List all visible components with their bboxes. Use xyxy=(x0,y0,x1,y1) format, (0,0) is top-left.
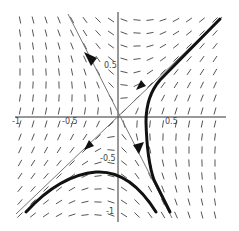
field-arrow xyxy=(162,173,164,179)
field-arrow xyxy=(213,56,217,61)
field-arrow xyxy=(58,134,61,140)
field-arrow xyxy=(32,147,35,153)
field-arrow xyxy=(214,82,217,88)
y-tick-label: 0.5 xyxy=(104,61,117,70)
field-arrow xyxy=(188,212,190,218)
field-arrow xyxy=(121,19,127,21)
field-arrow xyxy=(31,213,36,217)
field-arrow xyxy=(20,30,21,36)
field-arrow xyxy=(108,137,114,138)
field-arrow xyxy=(69,214,75,216)
field-arrow xyxy=(147,70,152,74)
field-arrow xyxy=(162,95,165,101)
field-arrow xyxy=(96,31,100,36)
field-arrow xyxy=(45,43,46,49)
field-arrow xyxy=(20,95,21,101)
field-arrow xyxy=(175,199,177,205)
field-arrow xyxy=(135,213,140,217)
field-arrow xyxy=(45,17,47,23)
field-arrow xyxy=(201,95,203,101)
field-arrow xyxy=(69,201,75,204)
field-arrow xyxy=(161,82,165,87)
field-arrow xyxy=(18,173,22,178)
field-arrow xyxy=(136,134,137,140)
field-arrow xyxy=(121,45,127,47)
field-arrow xyxy=(162,186,164,192)
field-arrow xyxy=(189,173,190,179)
field-arrow xyxy=(84,121,86,127)
field-arrow xyxy=(160,44,166,47)
field-arrow xyxy=(46,56,47,62)
field-arrow xyxy=(136,108,139,114)
field-arrow xyxy=(111,108,112,114)
field-arrow xyxy=(44,200,49,204)
field-arrow xyxy=(134,71,140,73)
field-arrow xyxy=(121,58,127,60)
field-arrow xyxy=(148,186,151,192)
field-arrow xyxy=(173,31,178,34)
field-arrow xyxy=(174,70,178,75)
field-arrow xyxy=(83,134,87,139)
field-arrow xyxy=(57,187,62,191)
field-arrow xyxy=(82,161,87,165)
field-arrow xyxy=(188,108,190,114)
field-arrow xyxy=(96,44,100,49)
field-arrow xyxy=(213,69,216,75)
x-tick-label: -0.5 xyxy=(62,117,78,126)
field-arrow xyxy=(121,187,126,191)
field-arrow xyxy=(97,95,98,101)
field-arrow xyxy=(58,43,60,49)
phase-portrait: -1 -0.5 0.5 0.5 -0.5 -1 xyxy=(0,0,239,231)
field-arrow xyxy=(201,108,203,114)
field-arrow xyxy=(135,200,139,205)
field-arrow xyxy=(134,20,140,21)
field-arrow xyxy=(59,69,60,75)
field-arrow xyxy=(188,121,189,127)
field-arrow xyxy=(108,44,113,48)
field-arrow xyxy=(175,108,177,114)
field-arrow xyxy=(121,200,126,204)
field-arrow xyxy=(58,56,59,62)
field-arrow xyxy=(18,213,23,217)
field-arrow xyxy=(147,20,153,21)
field-arrow xyxy=(108,31,113,35)
field-arrow xyxy=(202,134,203,140)
field-arrow xyxy=(82,188,88,190)
field-arrow xyxy=(69,187,75,190)
field-arrow xyxy=(109,83,113,88)
field-arrow xyxy=(44,174,48,179)
field-arrow xyxy=(188,199,190,205)
field-arrow xyxy=(71,134,74,140)
field-arrow xyxy=(122,148,127,152)
field-arrow xyxy=(96,56,100,61)
field-arrow xyxy=(97,82,99,88)
field-arrow xyxy=(149,108,151,114)
field-arrow xyxy=(215,134,216,140)
field-arrow xyxy=(96,18,101,23)
field-arrow xyxy=(134,59,140,60)
field-arrow xyxy=(121,85,127,86)
field-arrow xyxy=(71,69,72,75)
field-arrow xyxy=(201,82,204,88)
field-arrow xyxy=(82,215,88,216)
field-arrow xyxy=(189,134,190,140)
field-arrow xyxy=(108,188,114,190)
field-arrow xyxy=(121,98,127,99)
arrow-icon xyxy=(84,52,97,66)
field-arrow xyxy=(187,31,192,35)
field-arrow xyxy=(20,43,21,49)
field-arrow xyxy=(19,108,20,114)
field-arrow xyxy=(201,212,203,218)
field-arrow xyxy=(71,43,73,49)
x-tick-label: 0.5 xyxy=(165,117,178,126)
field-arrow xyxy=(19,147,22,153)
field-arrow xyxy=(71,56,73,62)
field-arrow xyxy=(200,56,204,61)
field-arrow xyxy=(56,200,61,203)
field-arrow xyxy=(18,160,21,166)
field-arrow xyxy=(32,30,33,36)
field-arrow xyxy=(173,19,179,22)
field-arrow xyxy=(174,82,177,87)
field-arrow xyxy=(56,214,62,217)
field-arrow xyxy=(31,173,35,178)
